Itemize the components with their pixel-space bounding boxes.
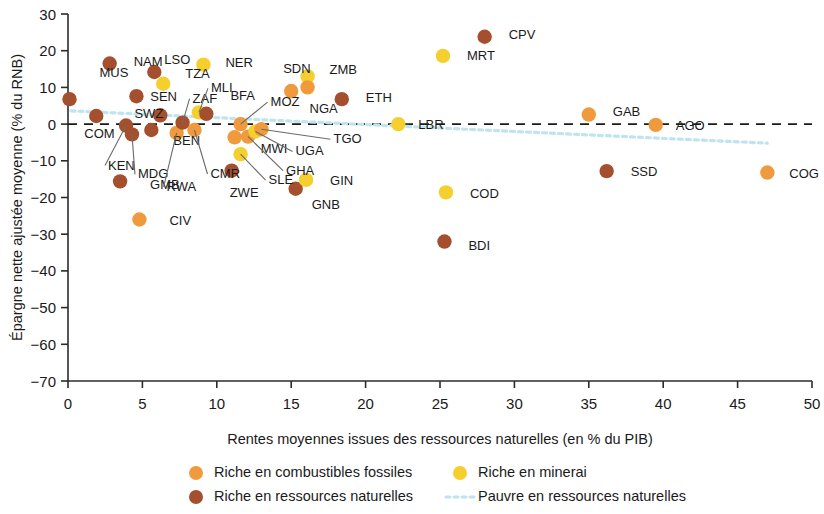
x-tick-label: 40 <box>655 395 672 412</box>
y-tick-label: −50 <box>31 299 56 316</box>
y-tick-label: −70 <box>31 373 56 390</box>
point-label-bdi: BDI <box>468 238 490 253</box>
scatter-point-ssd[interactable] <box>599 164 613 178</box>
legend-item[interactable]: Riche en combustibles fossiles <box>189 464 412 480</box>
point-label-cpv: CPV <box>509 27 536 42</box>
x-axis-ticks: 05101520253035404550 <box>64 381 821 412</box>
point-labels: MUSCOMNAMKENGMBMDGSWZCIVBENLSOSENTZARWAZ… <box>84 27 819 253</box>
y-tick-label: −40 <box>31 262 56 279</box>
legend-item[interactable]: Riche en ressources naturelles <box>189 488 413 504</box>
x-tick-label: 35 <box>580 395 597 412</box>
point-label-zwe: ZWE <box>230 185 259 200</box>
x-tick-label: 15 <box>283 395 300 412</box>
point-label-gha: GHA <box>286 163 315 178</box>
point-label-ssd: SSD <box>631 164 658 179</box>
y-tick-label: 0 <box>48 116 56 133</box>
x-tick-label: 20 <box>357 395 374 412</box>
point-label-eth: ETH <box>366 90 392 105</box>
scatter-point-cog[interactable] <box>760 165 774 179</box>
point-label-ner: NER <box>225 55 252 70</box>
point-label-mrt: MRT <box>467 48 495 63</box>
point-label-rwa: RWA <box>167 179 197 194</box>
point-label-swz: SWZ <box>134 106 163 121</box>
point-label-mli: MLI <box>211 80 233 95</box>
x-tick-label: 10 <box>208 395 225 412</box>
scatter-point-nga[interactable] <box>300 80 314 94</box>
scatter-point-swz[interactable] <box>129 89 143 103</box>
scatter-point-com[interactable] <box>89 109 103 123</box>
point-label-nga: NGA <box>310 101 339 116</box>
scatter-point-gab[interactable] <box>582 107 596 121</box>
scatter-point-mwi[interactable] <box>227 130 241 144</box>
y-axis-title: Épargne nette ajustée moyenne (% du RNB) <box>9 54 25 341</box>
point-label-nam: NAM <box>134 54 163 69</box>
point-label-cog: COG <box>789 166 819 181</box>
axes <box>68 14 812 381</box>
legend-item[interactable]: Riche en minerai <box>453 464 587 480</box>
x-tick-label: 45 <box>729 395 746 412</box>
scatter-point-civ[interactable] <box>132 212 146 226</box>
point-label-cod: COD <box>470 186 499 201</box>
point-label-sen: SEN <box>150 89 177 104</box>
x-tick-label: 30 <box>506 395 523 412</box>
scatter-point-cpv[interactable] <box>477 30 491 44</box>
chart-root: 3020100−10−20−30−40−50−60−70051015202530… <box>0 0 824 514</box>
scatter-point-ben[interactable] <box>144 123 158 137</box>
point-label-gin: GIN <box>330 173 353 188</box>
legend-marker-circle <box>189 490 203 504</box>
point-label-mwi: MWI <box>261 141 288 156</box>
point-label-mus: MUS <box>99 65 128 80</box>
label-leader-line <box>261 129 330 139</box>
label-leader-line <box>194 130 207 174</box>
scatter-chart: 3020100−10−20−30−40−50−60−70051015202530… <box>0 0 824 514</box>
point-label-zmb: ZMB <box>330 62 357 77</box>
scatter-point-bfa[interactable] <box>199 107 213 121</box>
point-label-ken: KEN <box>108 158 135 173</box>
scatter-point-mrt[interactable] <box>436 49 450 63</box>
x-tick-label: 50 <box>804 395 821 412</box>
legend-label: Riche en ressources naturelles <box>214 488 413 504</box>
scatter-point-zaf[interactable] <box>175 115 189 129</box>
scatter-point-mus[interactable] <box>62 92 76 106</box>
point-label-sdn: SDN <box>283 61 310 76</box>
point-label-gnb: GNB <box>312 197 340 212</box>
x-axis-title: Rentes moyennes issues des ressources na… <box>227 431 653 447</box>
point-label-civ: CIV <box>169 213 191 228</box>
point-label-cmr: CMR <box>210 166 240 181</box>
y-tick-label: 20 <box>39 42 56 59</box>
y-tick-label: 10 <box>39 79 56 96</box>
x-tick-label: 0 <box>64 395 72 412</box>
legend-marker-circle <box>189 466 203 480</box>
legend-marker-circle <box>453 466 467 480</box>
scatter-point-gmb[interactable] <box>113 174 127 188</box>
scatter-point-ago[interactable] <box>649 118 663 132</box>
point-label-gab: GAB <box>613 104 640 119</box>
point-label-uga: UGA <box>295 143 324 158</box>
y-tick-label: −60 <box>31 336 56 353</box>
legend-label: Riche en minerai <box>478 464 587 480</box>
legend-label: Riche en combustibles fossiles <box>214 464 412 480</box>
label-leader-line <box>241 154 266 180</box>
y-tick-label: 30 <box>39 6 56 23</box>
x-tick-label: 5 <box>138 395 146 412</box>
point-label-tgo: TGO <box>333 131 361 146</box>
legend-label: Pauvre en ressources naturelles <box>478 488 686 504</box>
legend-item[interactable]: Pauvre en ressources naturelles <box>446 488 686 504</box>
point-label-com: COM <box>84 126 114 141</box>
point-label-bfa: BFA <box>230 88 255 103</box>
point-label-moz: MOZ <box>271 94 300 109</box>
y-tick-label: −30 <box>31 226 56 243</box>
legend: Riche en combustibles fossilesRiche en m… <box>189 464 686 504</box>
point-label-mdg: MDG <box>138 166 168 181</box>
x-tick-label: 25 <box>432 395 449 412</box>
y-axis-ticks: 3020100−10−20−30−40−50−60−70 <box>31 6 68 390</box>
scatter-point-lbr[interactable] <box>391 117 405 131</box>
y-tick-label: −20 <box>31 189 56 206</box>
scatter-point-cod[interactable] <box>439 185 453 199</box>
point-label-lbr: LBR <box>418 117 443 132</box>
point-label-tza: TZA <box>185 66 210 81</box>
scatter-point-moz[interactable] <box>233 117 247 131</box>
point-label-ago: AGO <box>676 118 705 133</box>
scatter-point-bdi[interactable] <box>437 234 451 248</box>
y-tick-label: −10 <box>31 152 56 169</box>
